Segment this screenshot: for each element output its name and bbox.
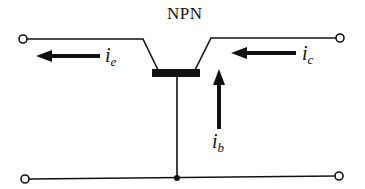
base-bar <box>152 69 200 77</box>
junction-dot-icon <box>174 175 180 181</box>
collector-terminal-icon <box>336 34 344 42</box>
base-current-label: ib <box>212 131 224 154</box>
common-ground-wire <box>29 176 335 179</box>
emitter-terminal-icon <box>19 35 27 43</box>
npn-transistor-circuit <box>0 0 365 189</box>
collector-current-arrow-icon <box>231 47 296 59</box>
transistor-type-label: NPN <box>167 5 203 22</box>
bottom-right-terminal-icon <box>335 172 343 180</box>
bottom-left-terminal-icon <box>21 175 29 183</box>
collector-current-label: ic <box>302 43 313 66</box>
base-current-arrow-icon <box>213 69 225 129</box>
emitter-current-label: ie <box>105 45 116 68</box>
emitter-current-arrow-icon <box>36 50 100 62</box>
